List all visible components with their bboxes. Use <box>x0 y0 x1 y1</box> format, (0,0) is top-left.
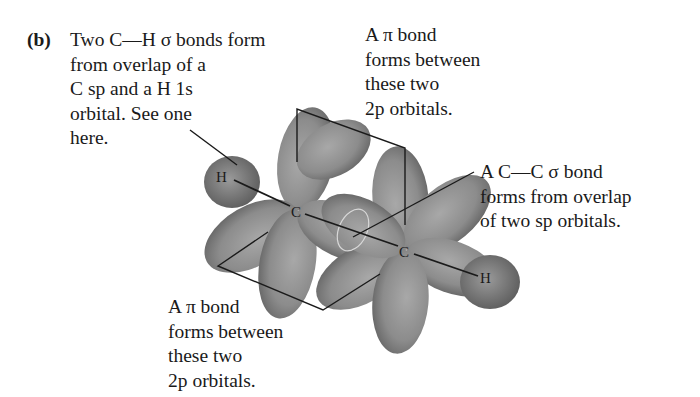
annotation-pi-top: A π bond forms between these two 2p orbi… <box>365 23 480 121</box>
annotation-line: A π bond <box>168 295 283 320</box>
annotation-ch-sigma: Two C—H σ bonds form from overlap of a C… <box>70 28 265 151</box>
annotation-line: forms from overlap <box>480 185 632 210</box>
annotation-line: these two <box>168 344 283 369</box>
panel-label: (b) <box>27 28 51 53</box>
annotation-line: forms between <box>168 320 283 345</box>
h-left-1s-orbital <box>204 156 260 208</box>
annotation-line: orbital. See one <box>70 102 265 127</box>
annotation-line: A C—C σ bond <box>480 160 632 185</box>
annotation-line: these two <box>365 72 480 97</box>
annotation-line: 2p orbitals. <box>168 369 283 394</box>
annotation-cc-sigma: A C—C σ bond forms from overlap of two s… <box>480 160 632 234</box>
annotation-line: from overlap of a <box>70 53 265 78</box>
annotation-line: of two sp orbitals. <box>480 209 632 234</box>
annotation-line: Two C—H σ bonds form <box>70 28 265 53</box>
atom-c-left: C <box>291 204 301 220</box>
atom-h-left: H <box>216 169 227 185</box>
atom-c-right: C <box>399 244 409 260</box>
annotation-line: forms between <box>365 48 480 73</box>
atom-h-right: H <box>480 270 491 286</box>
annotation-pi-bottom: A π bond forms between these two 2p orbi… <box>168 295 283 393</box>
annotation-line: C sp and a H 1s <box>70 77 265 102</box>
annotation-line: here. <box>70 126 265 151</box>
annotation-line: 2p orbitals. <box>365 97 480 122</box>
annotation-line: A π bond <box>365 23 480 48</box>
